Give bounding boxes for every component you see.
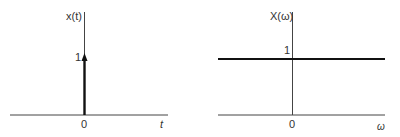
frequency-domain-plot: X(ω) 1 0 ω [218, 10, 385, 132]
t-label: t [160, 118, 164, 130]
impulse-arrow-icon [82, 53, 88, 61]
omega-label: ω [377, 121, 385, 132]
figure: x(t) 1 0 t X(ω) 1 0 ω [0, 0, 400, 137]
origin-label-right: 0 [289, 118, 295, 130]
origin-label: 0 [81, 118, 87, 130]
xt-label: x(t) [66, 10, 82, 22]
Xw-label: X(ω) [270, 10, 293, 22]
tick-1-label: 1 [75, 51, 81, 63]
time-domain-plot: x(t) 1 0 t [10, 10, 168, 130]
tick-1-label-right: 1 [284, 44, 290, 56]
